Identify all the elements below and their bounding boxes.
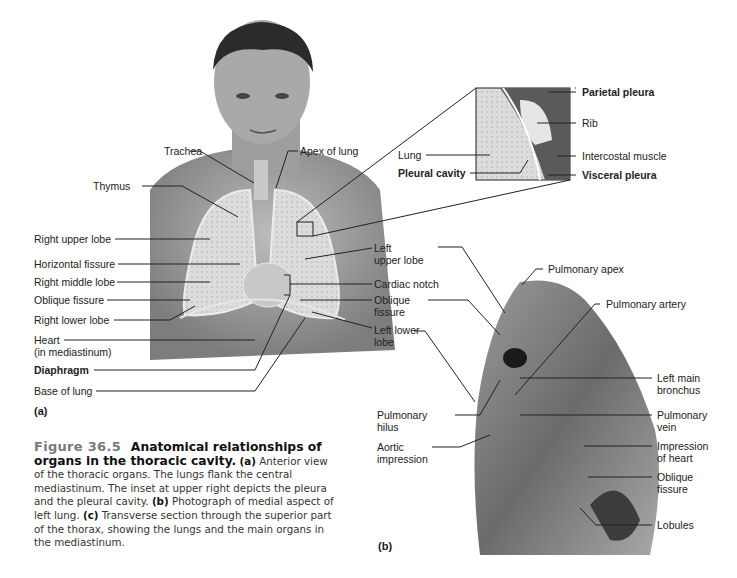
panel-tag-b: (b) [378,540,392,552]
label-right-upper-lobe: Right upper lobe [34,233,111,246]
caption-part-b-tag: (b) [152,495,169,507]
label-lobules: Lobules [657,519,694,532]
label-diaphragm: Diaphragm [34,364,89,377]
label-oblique-fissure-left-1: Oblique [374,294,410,307]
label-cardiac-notch: Cardiac notch [374,278,439,291]
caption-part-c-tag: (c) [83,509,99,521]
figure-caption: Figure 36.5 Anatomical relationships of … [34,440,334,550]
label-impression-of-heart-1: Impression [657,440,708,453]
label-horizontal-fissure: Horizontal fissure [34,258,115,271]
figure-number: Figure 36.5 [34,439,121,454]
label-right-lower-lobe: Right lower lobe [34,314,109,327]
label-aortic-impression-1: Aortic [377,441,404,454]
label-left-lower-lobe-1: Left lower [374,324,420,337]
label-aortic-impression-2: impression [377,453,428,466]
label-heart: Heart [34,334,60,347]
label-intercostal-muscle: Intercostal muscle [582,150,667,163]
label-pulmonary-apex: Pulmonary apex [548,263,624,276]
torso-photo [150,20,395,360]
label-oblique-fissure-a: Oblique fissure [34,294,104,307]
label-left-lower-lobe-2: lobe [374,336,394,349]
label-oblique-fissure-b-2: fissure [657,483,688,496]
label-oblique-fissure-left-2: fissure [374,306,405,319]
label-rib: Rib [582,117,598,130]
label-pulmonary-hilus-1: Pulmonary [377,409,427,422]
label-left-upper-lobe-1: Left [374,242,392,255]
label-left-main-bronchus-1: Left main [657,372,700,385]
label-base-of-lung: Base of lung [34,385,92,398]
label-inset-lung: Lung [398,149,421,162]
caption-part-a-tag: (a) [240,455,256,467]
label-visceral-pleura: Visceral pleura [582,169,657,182]
panel-tag-a: (a) [34,405,47,417]
label-left-upper-lobe-2: upper lobe [374,254,424,267]
label-pulmonary-hilus-2: hilus [377,421,399,434]
label-parietal-pleura: Parietal pleura [582,86,654,99]
label-impression-of-heart-2: of heart [657,452,693,465]
label-pulmonary-artery: Pulmonary artery [606,298,686,311]
label-pulmonary-vein-2: vein [657,421,676,434]
label-heart-sub: (in mediastinum) [34,346,112,359]
label-apex-of-lung: Apex of lung [300,145,358,158]
label-pleural-cavity: Pleural cavity [398,167,466,180]
label-thymus: Thymus [93,180,130,193]
label-right-middle-lobe: Right middle lobe [34,276,115,289]
label-left-main-bronchus-2: bronchus [657,384,700,397]
label-oblique-fissure-b-1: Oblique [657,471,693,484]
label-trachea: Trachea [164,145,202,158]
label-pulmonary-vein-1: Pulmonary [657,409,707,422]
lung-photo [474,280,659,555]
